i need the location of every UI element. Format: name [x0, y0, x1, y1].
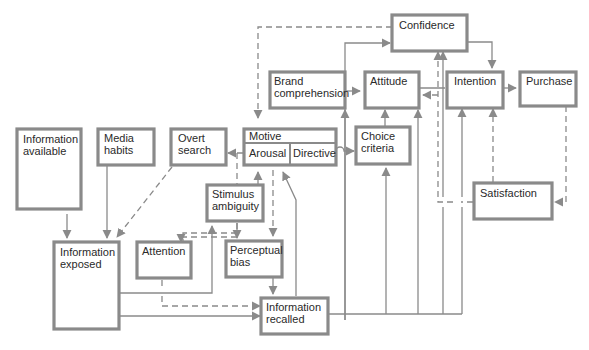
node-overt-search: Overt search — [171, 129, 226, 165]
svg-text:Motive: Motive — [249, 130, 281, 142]
node-intention: Intention — [447, 72, 503, 108]
node-media-habits: Media habits — [98, 129, 154, 165]
svg-text:Choice: Choice — [361, 130, 395, 142]
svg-text:Perceptual: Perceptual — [230, 244, 283, 256]
edge-overt-to-exposed — [117, 167, 172, 237]
svg-text:Attention: Attention — [142, 245, 185, 257]
node-motive: Motive Arousal Directive — [244, 129, 336, 165]
node-information-recalled: Information recalled — [261, 298, 328, 334]
edge-confidence-to-intention — [467, 42, 492, 68]
buyer-behavior-diagram: Information available Media habits Overt… — [0, 0, 589, 350]
svg-text:search: search — [178, 144, 211, 156]
svg-text:Directive: Directive — [293, 147, 336, 159]
svg-text:Media: Media — [104, 132, 135, 144]
svg-text:comprehension: comprehension — [274, 87, 349, 99]
svg-text:Confidence: Confidence — [399, 19, 455, 31]
svg-text:Attitude: Attitude — [370, 75, 407, 87]
node-brand-comprehension: Brand comprehension — [270, 72, 349, 108]
node-attitude: Attitude — [365, 72, 419, 108]
node-attention: Attention — [137, 242, 191, 278]
svg-text:Information: Information — [60, 246, 115, 258]
svg-text:Intention: Intention — [454, 75, 496, 87]
svg-text:criteria: criteria — [361, 142, 395, 154]
svg-text:Satisfaction: Satisfaction — [480, 187, 537, 199]
node-satisfaction: Satisfaction — [474, 183, 552, 219]
svg-text:habits: habits — [104, 144, 134, 156]
node-choice-criteria: Choice criteria — [356, 127, 410, 164]
svg-text:Arousal: Arousal — [249, 147, 286, 159]
svg-text:available: available — [23, 145, 66, 157]
svg-text:Information: Information — [23, 133, 78, 145]
svg-text:Overt: Overt — [178, 132, 205, 144]
svg-text:Brand: Brand — [274, 75, 303, 87]
node-purchase: Purchase — [520, 72, 576, 106]
node-information-available: Information available — [17, 129, 81, 209]
node-perceptual-bias: Perceptual bias — [226, 241, 283, 277]
svg-text:ambiguity: ambiguity — [212, 200, 260, 212]
node-stimulus-ambiguity: Stimulus ambiguity — [207, 185, 263, 221]
svg-text:Stimulus: Stimulus — [212, 188, 255, 200]
edge-recalled-to-motive — [283, 172, 296, 296]
edge-purchase-to-satisfaction — [555, 106, 566, 202]
svg-text:Information: Information — [266, 301, 321, 313]
svg-text:bias: bias — [230, 256, 251, 268]
svg-text:recalled: recalled — [266, 313, 305, 325]
svg-text:Purchase: Purchase — [526, 75, 572, 87]
svg-text:exposed: exposed — [60, 258, 102, 270]
node-confidence: Confidence — [392, 15, 467, 51]
node-information-exposed: Information exposed — [54, 242, 119, 329]
